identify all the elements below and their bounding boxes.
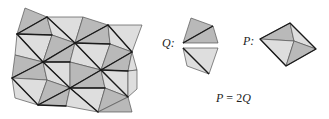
equation-lhs: P: [216, 91, 223, 105]
equation: P = 2Q: [216, 92, 251, 104]
tiling-pattern: [12, 8, 142, 112]
q-bottom-half: [183, 48, 218, 74]
tiling-diagram: [0, 0, 329, 119]
q-figure: [183, 18, 218, 74]
equation-rhs: Q: [242, 91, 251, 105]
q-top-half: [183, 18, 218, 43]
p-label: P:: [243, 35, 254, 47]
p-figure: [260, 23, 316, 66]
q-label: Q:: [162, 37, 175, 49]
equation-op: =: [226, 91, 233, 105]
